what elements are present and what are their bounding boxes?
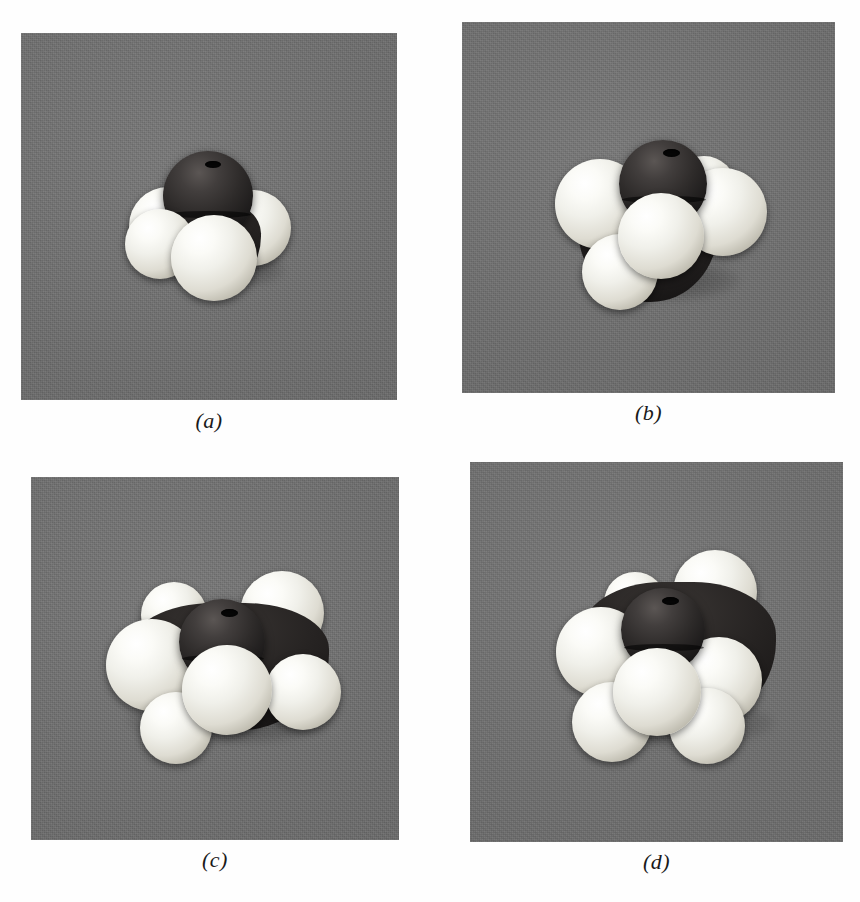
panel-caption-c: (c) [31,847,399,873]
hydrogen-atom [618,193,704,279]
bore-hole-icon [205,161,221,168]
panel-b: (b) [462,22,835,437]
bore-hole-icon [662,597,679,605]
photo-propane [31,477,399,840]
hydrogen-atom [613,648,701,736]
photo-ethane [462,22,835,393]
bore-hole-icon [221,609,238,617]
panel-a: (a) [21,33,397,445]
hydrogen-atom [182,645,272,735]
panel-d: (d) [470,462,843,882]
figure-sheet: (a) (b) [0,0,860,902]
photo-methane [21,33,397,400]
panel-caption-a: (a) [21,408,397,434]
hydrogen-atom [265,654,341,730]
panel-c: (c) [31,477,399,883]
hydrogen-atom [171,215,257,301]
panel-caption-d: (d) [470,849,843,875]
bore-hole-icon [663,149,680,157]
panel-caption-b: (b) [462,400,835,426]
photo-butane [470,462,843,842]
